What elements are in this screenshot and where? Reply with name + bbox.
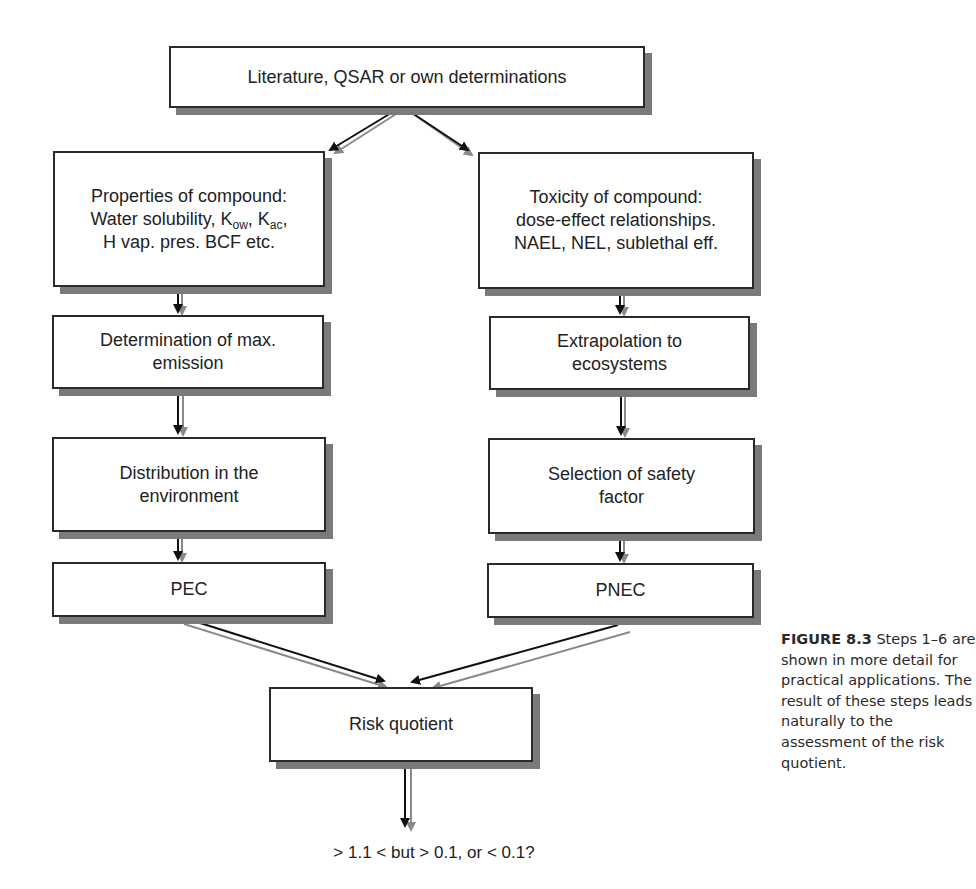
arrow-properties-to-max-emission [178, 289, 182, 314]
max-emission-line-1: Determination of max. [100, 329, 276, 352]
safety-factor-box: Selection of safety factor [488, 438, 755, 534]
pnec-box: PNEC [487, 563, 754, 618]
max-emission-line-2: emission [100, 352, 276, 375]
arrow-top-to-toxicity [403, 107, 472, 155]
distribution-line-1: Distribution in the [119, 462, 258, 485]
arrow-toxicity-to-extrapolation [620, 290, 624, 315]
distribution-line-2: environment [119, 485, 258, 508]
risk-quotient-result: > 1.1 < but > 0.1, or < 0.1? [284, 843, 584, 863]
extrapolation-box: Extrapolation to ecosystems [489, 316, 750, 390]
extrapolation-line-1: Extrapolation to [557, 330, 682, 353]
toxicity-of-compound-box: Toxicity of compound: dose-effect relati… [478, 152, 754, 289]
arrow-max-emission-to-distribution [178, 390, 183, 435]
literature-qsar-box: Literature, QSAR or own determinations [169, 46, 645, 108]
toxicity-line-1: Toxicity of compound: [514, 186, 718, 209]
toxicity-line-3: NAEL, NEL, sublethal eff. [514, 232, 718, 255]
distribution-box: Distribution in the environment [52, 437, 326, 532]
arrow-pec-to-risk-quotient [184, 622, 386, 687]
properties-line-3: H vap. pres. BCF etc. [90, 231, 287, 254]
figure-caption: FIGURE 8.3 Steps 1–6 are shown in more d… [781, 629, 976, 773]
arrow-risk-quotient-to-result [405, 761, 411, 830]
arrow-safety-factor-to-pnec [620, 535, 624, 562]
properties-line-2: Water solubility, Kow, Kac, [90, 208, 287, 231]
pec-box: PEC [52, 562, 326, 617]
figure-caption-label: FIGURE 8.3 [781, 631, 872, 647]
safety-factor-line-2: factor [548, 486, 695, 509]
literature-qsar-label: Literature, QSAR or own determinations [247, 66, 566, 89]
toxicity-line-2: dose-effect relationships. [514, 209, 718, 232]
risk-quotient-box: Risk quotient [269, 687, 533, 762]
pec-label: PEC [170, 578, 207, 601]
arrow-top-to-properties [330, 107, 404, 153]
risk-quotient-label: Risk quotient [349, 713, 453, 736]
safety-factor-line-1: Selection of safety [548, 463, 695, 486]
extrapolation-line-2: ecosystems [557, 353, 682, 376]
arrow-pnec-to-risk-quotient [412, 625, 630, 688]
properties-of-compound-box: Properties of compound: Water solubility… [53, 151, 325, 287]
properties-line-1: Properties of compound: [90, 185, 287, 208]
arrow-distribution-to-pec [178, 533, 182, 561]
figure-caption-text: Steps 1–6 are shown in more detail for p… [781, 631, 975, 771]
max-emission-box: Determination of max. emission [52, 315, 324, 389]
pnec-label: PNEC [595, 579, 645, 602]
arrow-extrapolation-to-safety-factor [621, 391, 625, 436]
